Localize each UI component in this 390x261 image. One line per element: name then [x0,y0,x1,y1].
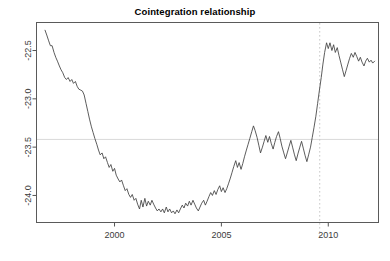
plot-box-border [37,23,379,223]
plot-annotations [37,23,378,237]
x-tick-label: 2010 [318,230,338,240]
x-axis-tick-labels: 200020052010 [105,230,339,240]
y-tick-label: -23.0 [24,89,34,110]
x-axis-ticks [115,223,329,227]
y-tick-label: -23.5 [24,137,34,158]
cointegration-residual-line [45,30,375,214]
x-tick-label: 2000 [105,230,125,240]
x-tick-label: 2005 [211,230,231,240]
y-axis-tick-labels: -22.5-23.0-23.5-24.0 [24,40,34,205]
y-axis-ticks [33,51,37,196]
data-series-group [45,30,375,214]
y-tick-label: -24.0 [24,185,34,206]
cointegration-line-chart: -22.5-23.0-23.5-24.0 200020052010 [0,0,390,261]
y-tick-label: -22.5 [24,40,34,61]
plot-frame [37,23,379,223]
chart-figure: Cointegration relationship -22.5-23.0-23… [0,0,390,261]
